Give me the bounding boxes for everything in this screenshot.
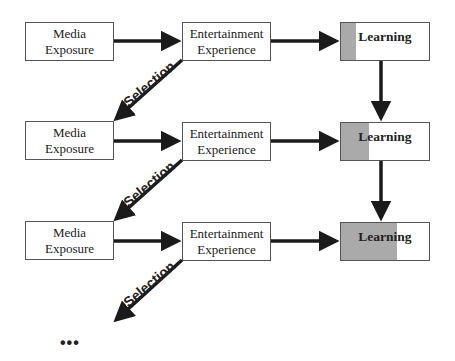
media-exposure-box-3: Media Exposure (25, 221, 114, 260)
media-label-line1: Media (26, 225, 113, 241)
ent-label-line1: Entertainment (183, 26, 270, 42)
entertainment-experience-box-1: Entertainment Experience (182, 22, 271, 61)
entertainment-experience-box-3: Entertainment Experience (182, 222, 271, 261)
continuation-ellipsis: ••• (60, 334, 80, 352)
media-label-line2: Exposure (26, 241, 113, 257)
ent-label-line2: Experience (183, 142, 270, 158)
media-label-line2: Exposure (26, 42, 113, 58)
media-label-line2: Exposure (26, 141, 113, 157)
learning-label: Learning (341, 29, 429, 45)
ent-label-line1: Entertainment (183, 126, 270, 142)
media-exposure-box-2: Media Exposure (25, 121, 114, 160)
entertainment-experience-box-2: Entertainment Experience (182, 122, 271, 161)
media-label-line1: Media (26, 26, 113, 42)
learning-label: Learning (341, 129, 429, 145)
learning-box-3: Learning (340, 222, 430, 261)
learning-box-1: Learning (340, 22, 430, 61)
ent-label-line1: Entertainment (183, 226, 270, 242)
ent-label-line2: Experience (183, 242, 270, 258)
media-label-line1: Media (26, 125, 113, 141)
learning-label: Learning (341, 229, 429, 245)
media-exposure-box-1: Media Exposure (25, 22, 114, 61)
ent-label-line2: Experience (183, 42, 270, 58)
learning-box-2: Learning (340, 122, 430, 161)
